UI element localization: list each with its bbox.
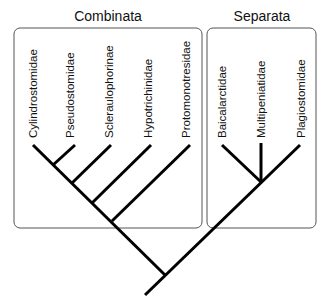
group-title-combinata: Combinata [74,8,142,24]
cladogram: Combinata Separata Cylindrostomidae Pseu… [0,0,326,307]
taxon-label: Scleraulophorinae [103,45,115,138]
taxon-label: Multipeniatidae [255,61,267,138]
taxon-label: Plagiostomidae [295,59,307,138]
branch-scleraulophorinae [72,145,111,183]
taxon-label: Cylindrostomidae [27,49,39,138]
branch-pseudostomidae [53,145,75,165]
branch-baicalarctidae [222,145,261,182]
taxon-label: Pseudostomidae [64,52,76,138]
taxon-label: Hypotrichinidae [142,59,154,138]
taxon-label: Protomonotresidae [180,41,192,138]
taxon-label: Baicalarctidae [216,66,228,138]
group-title-separata: Separata [234,8,291,24]
branch-protomonotresidae [112,145,190,221]
